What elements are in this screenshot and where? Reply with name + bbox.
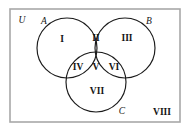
region-label-ii: II [92,33,100,43]
region-label-vi: VI [109,62,120,72]
set-label-a: A [40,16,47,26]
region-label-vii: VII [90,86,105,96]
region-label-iii: III [121,33,132,43]
universe-label: U [19,15,27,25]
region-label-i: I [60,34,64,44]
region-label-iv: IV [73,62,84,72]
venn-diagram-canvas: U A B C I II III IV V VI VII VIII [0,0,192,131]
region-label-viii: VIII [153,107,171,117]
set-label-c: C [119,106,126,116]
region-label-v: V [93,62,100,72]
venn-diagram-figure: U A B C I II III IV V VI VII VIII [0,0,192,131]
set-label-b: B [146,16,152,26]
